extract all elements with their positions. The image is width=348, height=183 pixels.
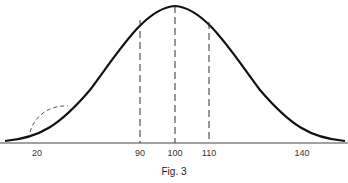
tick-label-20: 20 xyxy=(32,148,42,158)
figure: 20 90 100 110 140 Fig. 3 xyxy=(0,0,348,183)
tick-label-90: 90 xyxy=(135,148,145,158)
tick-label-110: 110 xyxy=(202,148,216,158)
figure-caption: Fig. 3 xyxy=(161,166,186,177)
tick-label-140: 140 xyxy=(294,148,309,158)
tick-label-100: 100 xyxy=(167,148,182,158)
